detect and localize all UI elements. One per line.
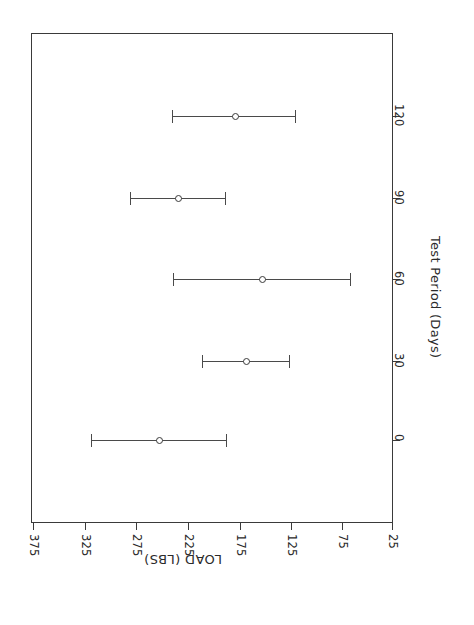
- errorbar-cap-low: [173, 273, 174, 286]
- errorbar-cap-high: [295, 110, 296, 123]
- load-tick-125: [291, 523, 292, 530]
- load-tick-225: [188, 523, 189, 530]
- mean-marker: [232, 113, 239, 120]
- period-tick-label-30: 30: [392, 353, 406, 368]
- load-tick-label-325: 325: [79, 534, 93, 557]
- load-tick-label-75: 75: [336, 534, 350, 549]
- load-tick-375: [33, 523, 34, 530]
- errorbar-cap-low: [172, 110, 173, 123]
- chart-figure: 375 325 275 225 175 125 75 25 120 90 60 …: [0, 0, 474, 625]
- period-tick-label-90: 90: [392, 190, 406, 205]
- errorbar-cap-high: [226, 434, 227, 447]
- period-tick-label-0: 0: [392, 434, 406, 442]
- load-tick-label-375: 375: [27, 534, 41, 557]
- errorbar-cap-low: [91, 434, 92, 447]
- errorbar-cap-low: [202, 355, 203, 368]
- errorbar-cap-low: [130, 192, 131, 205]
- period-tick-label-60: 60: [392, 271, 406, 286]
- errorbar-cap-high: [350, 273, 351, 286]
- load-tick-25: [392, 523, 393, 530]
- load-tick-325: [85, 523, 86, 530]
- errorbar-cap-high: [225, 192, 226, 205]
- period-axis-title: Test Period (Days): [428, 236, 443, 358]
- load-tick-75: [342, 523, 343, 530]
- load-tick-175: [240, 523, 241, 530]
- mean-marker: [175, 195, 182, 202]
- mean-marker: [243, 358, 250, 365]
- load-axis-title: LOAD (LBS): [144, 552, 222, 567]
- load-tick-label-275: 275: [130, 534, 144, 557]
- load-tick-label-175: 175: [234, 534, 248, 557]
- mean-marker: [156, 437, 163, 444]
- mean-marker: [259, 276, 266, 283]
- plot-area: [31, 33, 393, 523]
- load-tick-275: [136, 523, 137, 530]
- load-tick-label-125: 125: [285, 534, 299, 557]
- period-tick-label-120: 120: [392, 104, 406, 127]
- load-tick-label-25: 25: [386, 534, 400, 549]
- errorbar-cap-high: [289, 355, 290, 368]
